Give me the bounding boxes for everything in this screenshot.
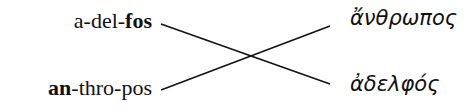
line-adelfos-to-greek xyxy=(161,24,330,84)
right-item-adelfos: ἀδελφός xyxy=(350,72,440,96)
right-item-anthropos: ἄνθρωπος xyxy=(350,6,457,30)
line-anthropos-to-greek xyxy=(161,26,330,90)
